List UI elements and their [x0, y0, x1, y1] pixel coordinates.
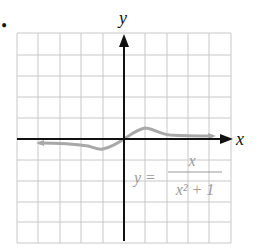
axes: [17, 34, 233, 241]
graph-canvas: y x • y = x x² + 1: [0, 0, 258, 250]
y-axis-label: y: [117, 8, 127, 28]
bullet-marker: •: [0, 18, 8, 34]
x-axis-label: x: [235, 129, 244, 149]
svg-text:x² + 1: x² + 1: [175, 181, 215, 198]
curve-left-arrow-icon: [36, 140, 44, 146]
svg-text:y =: y =: [132, 169, 156, 187]
svg-text:x: x: [187, 152, 195, 169]
y-axis-arrow-icon: [119, 34, 129, 47]
